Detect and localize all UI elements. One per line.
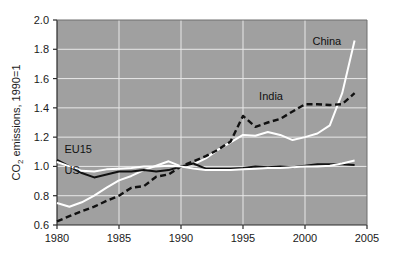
x-tick-label: 1990 bbox=[169, 232, 193, 244]
series-label-china: China bbox=[312, 35, 342, 47]
y-axis-tick-labels: 0.60.81.01.21.41.61.82.0 bbox=[34, 14, 49, 231]
y-title-part-main: CO bbox=[10, 164, 22, 181]
y-tick-label: 1.6 bbox=[34, 73, 49, 85]
y-tick-label: 0.8 bbox=[34, 190, 49, 202]
x-tick-label: 1985 bbox=[107, 232, 131, 244]
series-label-eu15: EU15 bbox=[64, 143, 92, 155]
y-tick-label: 1.0 bbox=[34, 160, 49, 172]
y-axis-title-text: CO2 emissions, 1990=1 bbox=[10, 64, 25, 180]
y-tick-label: 1.8 bbox=[34, 43, 49, 55]
y-title-part-rest: emissions, 1990=1 bbox=[10, 64, 22, 159]
y-tick-label: 1.2 bbox=[34, 131, 49, 143]
series-label-india: India bbox=[259, 90, 284, 102]
x-axis-tick-labels: 198019851990199520002005 bbox=[45, 232, 379, 244]
series-label-us: US bbox=[64, 164, 79, 176]
x-tick-label: 2000 bbox=[293, 232, 317, 244]
x-tick-label: 2005 bbox=[355, 232, 379, 244]
plot-background-group bbox=[57, 20, 367, 225]
co2-emissions-line-chart: 198019851990199520002005 0.60.81.01.21.4… bbox=[0, 0, 398, 265]
y-axis-title: CO2 emissions, 1990=1 bbox=[10, 64, 25, 180]
x-tick-label: 1995 bbox=[231, 232, 255, 244]
y-tick-label: 2.0 bbox=[34, 14, 49, 26]
plot-area-background bbox=[57, 20, 367, 225]
y-tick-label: 0.6 bbox=[34, 219, 49, 231]
x-tick-label: 1980 bbox=[45, 232, 69, 244]
chart-figure: 198019851990199520002005 0.60.81.01.21.4… bbox=[0, 0, 398, 265]
y-tick-label: 1.4 bbox=[34, 102, 49, 114]
y-axis-title-label: CO2 emissions, 1990=1 bbox=[10, 64, 25, 180]
